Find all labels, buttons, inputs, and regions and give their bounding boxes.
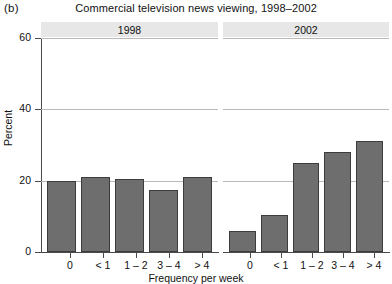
y-axis-title: Percent (2, 98, 14, 158)
x-label-2002-1-2: 1 – 2 (300, 259, 323, 271)
y-tick-label-20: 20 (19, 174, 31, 186)
bar-2002-3-4 (324, 152, 351, 252)
y-tick-label-0: 0 (25, 245, 31, 257)
chart-title: Commercial television news viewing, 1998… (0, 2, 392, 14)
x-tick-2002-1-2 (312, 253, 313, 258)
x-tick-2002-gt4 (374, 253, 375, 258)
x-axis-line-2002 (223, 252, 390, 253)
x-tick-2002-3-4 (343, 253, 344, 258)
bar-group-2002 (223, 38, 389, 252)
plot-panel-2002 (223, 38, 389, 252)
x-axis-title: Frequency per week (0, 272, 392, 284)
x-label-1998-3-4: 3 – 4 (157, 259, 180, 271)
x-tick-1998-lt1 (103, 253, 104, 258)
bar-1998-1-2 (115, 179, 144, 252)
x-label-2002-gt4: > 4 (367, 259, 382, 271)
x-label-1998-lt1: < 1 (96, 259, 111, 271)
x-label-1998-1-2: 1 – 2 (124, 259, 147, 271)
bar-2002-0 (229, 231, 256, 252)
x-axis-line-1998 (41, 252, 219, 253)
x-label-1998-0: 0 (67, 259, 73, 271)
x-tick-2002-lt1 (281, 253, 282, 258)
bar-2002-lt1 (261, 215, 288, 252)
bar-group-1998 (41, 38, 218, 252)
bar-2002-1-2 (293, 163, 320, 252)
x-label-2002-0: 0 (247, 259, 253, 271)
x-label-1998-gt4: > 4 (195, 259, 210, 271)
bar-1998-gt4 (183, 177, 212, 252)
x-label-2002-lt1: < 1 (274, 259, 289, 271)
bar-1998-3-4 (149, 190, 178, 252)
bar-1998-0 (47, 181, 76, 252)
facet-strip-1998: 1998 (41, 22, 218, 37)
x-label-2002-3-4: 3 – 4 (331, 259, 354, 271)
figure-panel-b: (b) Commercial television news viewing, … (0, 0, 392, 284)
x-tick-1998-gt4 (202, 253, 203, 258)
plot-panel-1998 (41, 38, 218, 252)
y-tick-label-60: 60 (19, 31, 31, 43)
x-tick-1998-3-4 (169, 253, 170, 258)
bar-1998-lt1 (81, 177, 110, 252)
x-tick-2002-0 (250, 253, 251, 258)
facet-strip-2002: 2002 (223, 22, 389, 37)
x-tick-1998-1-2 (136, 253, 137, 258)
y-tick-label-40: 40 (19, 102, 31, 114)
x-tick-1998-0 (70, 253, 71, 258)
bar-2002-gt4 (356, 141, 383, 252)
